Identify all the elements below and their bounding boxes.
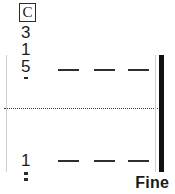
final-barline (159, 55, 164, 172)
fine-marking: Fine (135, 174, 169, 192)
tick-mark-icon (24, 178, 28, 181)
tick-mark-icon (24, 77, 28, 79)
barline-thin (155, 55, 156, 172)
staff-dash (128, 160, 149, 162)
measure-number: 1 (21, 152, 37, 169)
staff-dash (58, 69, 79, 71)
measure-number: 3 (21, 24, 37, 41)
staff-dash (128, 69, 149, 71)
staff-dash (94, 69, 115, 71)
left-margin-rule (6, 55, 7, 172)
tick-mark-icon (24, 172, 28, 175)
common-time-icon: C (20, 4, 35, 21)
time-signature-box[interactable]: C (19, 3, 36, 22)
dotted-divider (4, 108, 164, 109)
measure-number: 1 (21, 41, 37, 58)
measure-number: 5 (21, 58, 37, 75)
staff-dash (94, 160, 115, 162)
staff-dash (58, 160, 79, 162)
score-fragment-canvas: C 3 1 5 1 Fine (0, 0, 175, 194)
